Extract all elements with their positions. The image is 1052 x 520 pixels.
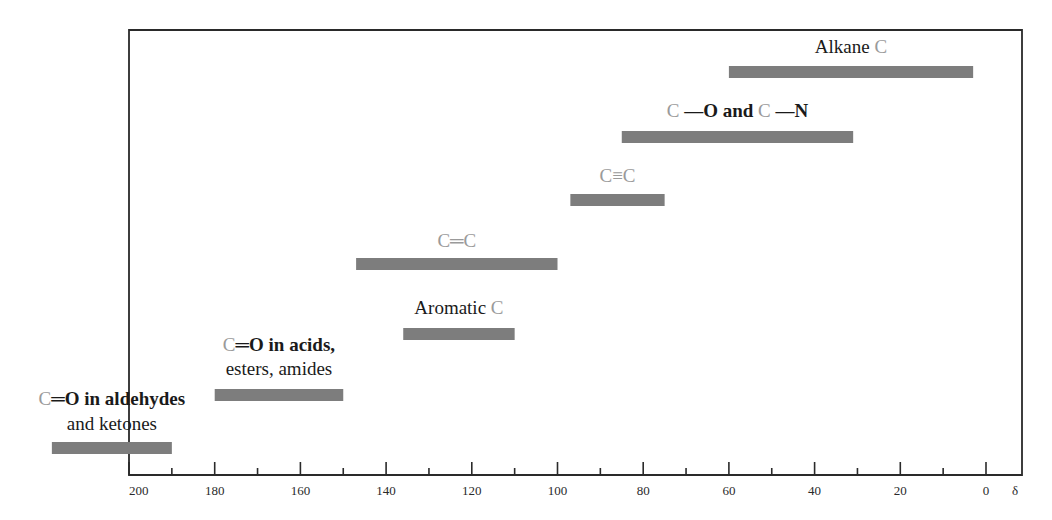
tick-label-60: 60	[722, 483, 735, 498]
bar-c-o-in-aldehydes-and-ketones	[52, 442, 172, 454]
bar-c-c	[356, 258, 557, 270]
label-c-c-line-1: C═C	[437, 230, 476, 251]
tick-label-160: 160	[291, 483, 311, 498]
label-c-o-in-acids-esters-amides-line-2: esters, amides	[226, 358, 333, 379]
plot-frame	[129, 30, 1022, 475]
label-c-c-line-1: C≡C	[599, 165, 635, 186]
bar-c-c	[570, 194, 664, 206]
label-c-o-in-acids-esters-amides-line-1: C═O in acids,	[223, 334, 335, 355]
tick-label-40: 40	[808, 483, 821, 498]
shift-range-labels: C═O in aldehydesand ketonesC═O in acids,…	[39, 36, 888, 434]
tick-label-80: 80	[637, 483, 650, 498]
bar-c-o-in-acids-esters-amides	[215, 389, 344, 401]
tick-label-20: 20	[894, 483, 907, 498]
x-axis-unit-label: δ	[1012, 483, 1018, 498]
tick-label-180: 180	[205, 483, 225, 498]
bar-alkane-c	[729, 66, 973, 78]
label-c-o-in-aldehydes-and-ketones-line-1: C═O in aldehydes	[39, 388, 186, 409]
tick-label-120: 120	[462, 483, 482, 498]
label-c-o-and-c-n-line-1: C —O and C —N	[667, 100, 809, 121]
tick-label-200: 200	[129, 483, 149, 498]
tick-label-0: 0	[983, 483, 990, 498]
bar-aromatic-c	[403, 328, 514, 340]
label-c-o-in-aldehydes-and-ketones-line-2: and ketones	[67, 413, 157, 434]
x-axis-ticks	[129, 462, 986, 475]
bar-c-o-and-c-n	[622, 131, 853, 143]
tick-label-140: 140	[376, 483, 396, 498]
tick-label-100: 100	[548, 483, 568, 498]
x-axis-tick-labels: 200180160140120100806040200	[129, 483, 989, 498]
label-aromatic-c-line-1: Aromatic C	[414, 297, 503, 318]
chemical-shift-chart: 200180160140120100806040200 δ C═O in ald…	[0, 0, 1052, 520]
label-alkane-c-line-1: Alkane C	[815, 36, 887, 57]
shift-range-bars	[52, 66, 973, 454]
